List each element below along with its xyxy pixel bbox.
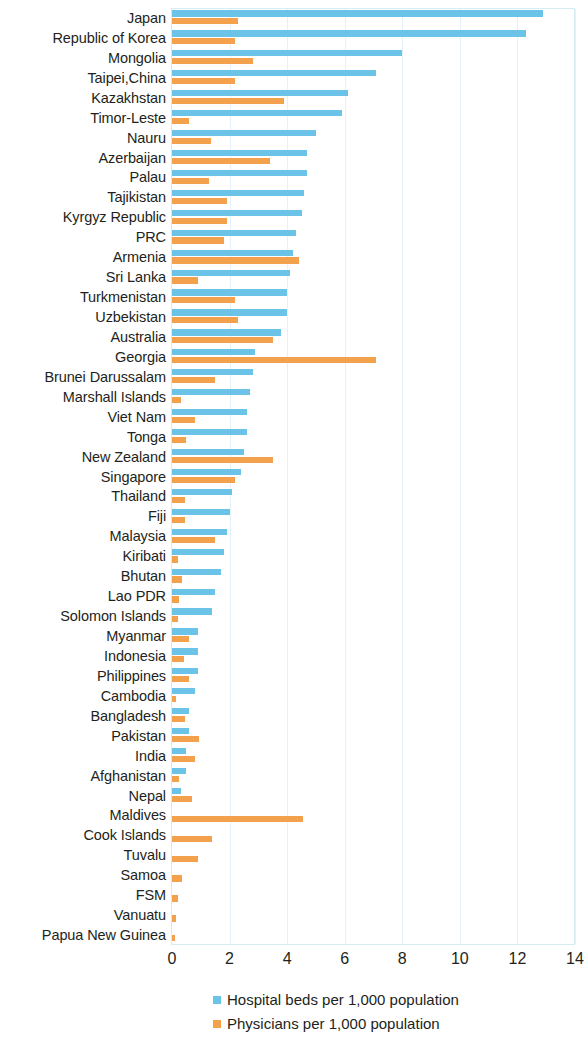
category-label: Cambodia [6,686,166,707]
bar-physicians [172,636,189,642]
bar-group [172,108,586,129]
bar-physicians [172,576,182,582]
chart-row: Mongolia [0,48,586,69]
bar-hospital-beds [172,309,287,315]
bar-physicians [172,237,224,243]
chart-row: PRC [0,227,586,248]
category-label: Kyrgyz Republic [6,207,166,228]
legend-item[interactable]: Hospital beds per 1,000 population [0,988,586,1012]
chart-row: Turkmenistan [0,287,586,308]
category-label: Samoa [6,865,166,886]
bar-group [172,407,586,428]
bar-hospital-beds [172,130,316,136]
bar-physicians [172,78,235,84]
bar-group [172,68,586,89]
bar-group [172,267,586,288]
category-label: Kiribati [6,546,166,567]
category-label: Marshall Islands [6,387,166,408]
bar-physicians [172,517,185,523]
bar-group [172,486,586,507]
category-label: Afghanistan [6,766,166,787]
chart-row: Tonga [0,427,586,448]
category-label: Myanmar [6,626,166,647]
bar-hospital-beds [172,449,244,455]
category-label: Lao PDR [6,586,166,607]
chart-row: Sri Lanka [0,267,586,288]
chart-row: Afghanistan [0,766,586,787]
bar-physicians [172,297,235,303]
bar-physicians [172,277,198,283]
chart-row: India [0,746,586,767]
category-label: Tonga [6,427,166,448]
category-label: Tajikistan [6,187,166,208]
chart-row: Papua New Guinea [0,925,586,946]
bar-group [172,586,586,607]
chart-row: Uzbekistan [0,307,586,328]
chart-row: Bhutan [0,566,586,587]
bar-hospital-beds [172,748,186,754]
bar-group [172,566,586,587]
x-tick-label: 12 [492,949,542,969]
chart-legend: Hospital beds per 1,000 populationPhysic… [0,988,586,1036]
bar-physicians [172,317,238,323]
bar-physicians [172,18,238,24]
category-label: India [6,746,166,767]
chart-row: Singapore [0,467,586,488]
bar-physicians [172,357,376,363]
bar-group [172,8,586,29]
category-label: Australia [6,327,166,348]
category-label: Vanuatu [6,905,166,926]
chart-row: Georgia [0,347,586,368]
chart-row: Armenia [0,247,586,268]
legend-item[interactable]: Physicians per 1,000 population [0,1012,586,1036]
bar-group [172,88,586,109]
bar-physicians [172,118,189,124]
bar-group [172,247,586,268]
bar-hospital-beds [172,70,376,76]
chart-row: Palau [0,167,586,188]
bar-hospital-beds [172,349,255,355]
chart-row: Brunei Darussalam [0,367,586,388]
chart-row: Nauru [0,128,586,149]
x-tick-label: 6 [320,949,370,969]
bar-physicians [172,337,273,343]
bar-physicians [172,218,227,224]
bar-group [172,805,586,826]
x-tick-label: 0 [147,949,197,969]
category-label: Sri Lanka [6,267,166,288]
category-label: Georgia [6,347,166,368]
chart-row: Myanmar [0,626,586,647]
bar-physicians [172,616,178,622]
bar-group [172,885,586,906]
bar-group [172,686,586,707]
bar-hospital-beds [172,369,253,375]
chart-row: Tajikistan [0,187,586,208]
category-label: Solomon Islands [6,606,166,627]
bar-hospital-beds [172,589,215,595]
category-label: Timor-Leste [6,108,166,129]
bar-hospital-beds [172,150,307,156]
category-label: Uzbekistan [6,307,166,328]
bar-physicians [172,437,186,443]
bar-group [172,766,586,787]
category-label: Brunei Darussalam [6,367,166,388]
bar-hospital-beds [172,768,186,774]
bar-group [172,626,586,647]
x-tick-label: 10 [435,949,485,969]
bar-physicians [172,816,303,822]
bar-hospital-beds [172,389,250,395]
bar-group [172,666,586,687]
bar-hospital-beds [172,628,198,634]
bar-group [172,167,586,188]
bar-hospital-beds [172,409,247,415]
bar-hospital-beds [172,668,198,674]
bar-group [172,467,586,488]
bar-group [172,227,586,248]
x-tick-label: 14 [550,949,586,969]
bar-physicians [172,138,211,144]
bar-group [172,706,586,727]
chart-row: Japan [0,8,586,29]
bar-hospital-beds [172,489,232,495]
legend-swatch-icon [213,996,221,1004]
chart-row: Australia [0,327,586,348]
